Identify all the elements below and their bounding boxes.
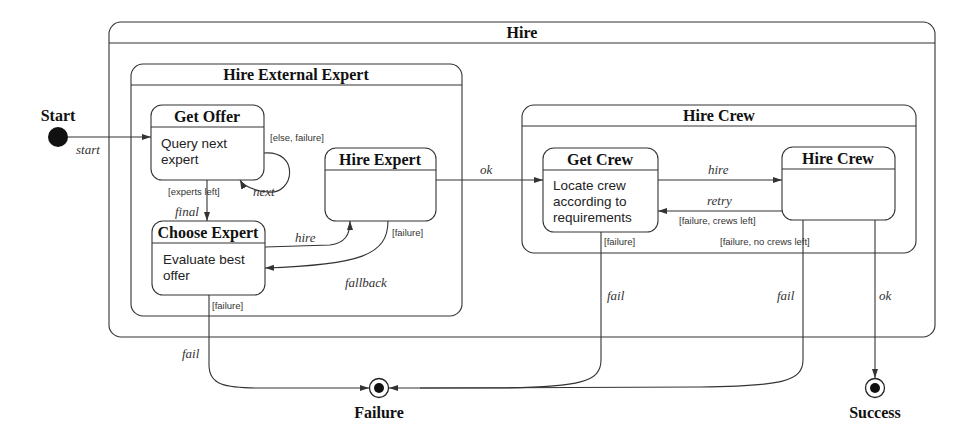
transition-ok-success-label: ok [879, 288, 892, 303]
start-label: Start [41, 107, 76, 124]
state-choose-expert-body-2: offer [163, 268, 190, 283]
transition-next-label: next [253, 184, 275, 199]
state-choose-expert: Choose Expert Evaluate best offer [152, 221, 265, 295]
start-node: Start [41, 107, 76, 147]
success-label: Success [849, 404, 901, 421]
state-get-crew-body-1: Locate crew [553, 178, 626, 193]
transition-fallback-label: fallback [345, 275, 387, 290]
transition-fail-get-crew-label: fail [607, 288, 625, 303]
state-get-offer-body-1: Query next [161, 136, 227, 151]
state-get-offer-title: Get Offer [174, 108, 240, 125]
transition-hire-label: hire [295, 230, 316, 245]
success-node: Success [849, 379, 901, 422]
composite-hire-title: Hire [507, 24, 538, 41]
composite-hire-crew-title: Hire Crew [683, 107, 755, 124]
guard-choose-expert-failure: [failure] [212, 300, 243, 311]
state-hire-expert-title: Hire Expert [339, 151, 422, 169]
guard-hire-expert-failure: [failure] [392, 227, 423, 238]
state-get-crew-body-2: according to [553, 194, 627, 209]
transition-ok-label: ok [480, 162, 493, 177]
state-get-crew-body-3: requirements [553, 210, 632, 225]
failure-node: Failure [354, 379, 403, 422]
transition-crew-hire-label: hire [708, 162, 729, 177]
composite-hire-external-expert-title: Hire External Expert [223, 66, 369, 84]
state-get-crew-title: Get Crew [567, 151, 633, 168]
guard-else-failure: [else, failure] [270, 132, 324, 143]
statechart-diagram: Hire Hire External Expert Hire Crew Get … [0, 0, 980, 445]
transition-retry-label: retry [707, 193, 732, 208]
transition-start-label: start [76, 142, 100, 157]
state-choose-expert-body-1: Evaluate best [163, 252, 245, 267]
state-get-offer-body-2: expert [161, 152, 199, 167]
failure-label: Failure [354, 404, 403, 421]
transition-fallback [265, 221, 388, 268]
state-choose-expert-title: Choose Expert [158, 224, 260, 242]
state-hire-crew: Hire Crew [782, 147, 895, 220]
transition-fail-get-crew [389, 232, 601, 388]
guard-no-crews-left: [failure, no crews left] [720, 236, 810, 247]
state-get-offer: Get Offer Query next expert [151, 105, 264, 180]
transition-final-label: final [175, 204, 199, 219]
guard-get-crew-failure: [failure] [604, 236, 635, 247]
state-hire-expert: Hire Expert [325, 148, 436, 221]
guard-crews-left: [failure, crews left] [679, 215, 756, 226]
guard-experts-left: [experts left] [168, 186, 220, 197]
state-get-crew: Get Crew Locate crew according to requir… [543, 148, 658, 232]
state-hire-crew-title: Hire Crew [802, 150, 874, 167]
transition-fail-choose-label: fail [182, 346, 200, 361]
transition-fail-hire-crew-label: fail [777, 288, 795, 303]
